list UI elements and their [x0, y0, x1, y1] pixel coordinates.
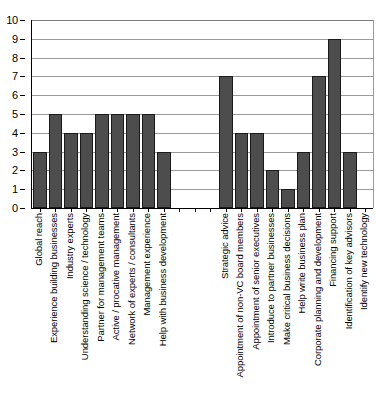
x-axis-label-slot: Corporate planning and development — [310, 213, 326, 413]
x-axis-label: Active / procative management — [111, 213, 121, 341]
x-axis-label-slot: Partner for management teams — [93, 213, 109, 413]
x-tick-mark — [288, 208, 289, 212]
x-axis-label: Partner for management teams — [96, 213, 106, 342]
bar[interactable] — [328, 39, 342, 208]
x-axis-label-slot: Industry experts — [62, 213, 78, 413]
bar-slot — [187, 20, 203, 208]
x-tick-mark — [164, 208, 165, 212]
bar[interactable] — [281, 189, 295, 208]
y-tick-label: 1 — [12, 184, 18, 195]
x-tick-mark — [272, 208, 273, 212]
x-axis-label: Appointment of non-VC board members — [235, 213, 245, 377]
bar-slot — [249, 20, 265, 208]
y-tick-label: 6 — [12, 90, 18, 101]
y-tick-mark — [20, 170, 25, 171]
bar[interactable] — [312, 76, 326, 208]
x-axis-label-slot — [186, 213, 202, 413]
bars-layer — [32, 20, 373, 208]
x-axis-label: Network of experts / consultants — [127, 213, 137, 345]
x-axis-label: Help with business development — [158, 213, 168, 346]
bar[interactable] — [49, 114, 63, 208]
y-tick-label: 5 — [12, 109, 18, 120]
x-axis-label: Identify new technology — [359, 213, 369, 310]
bar-slot — [125, 20, 141, 208]
bar-slot — [32, 20, 48, 208]
bar-slot — [296, 20, 312, 208]
x-axis-label-slot: Help write business plan — [295, 213, 311, 413]
x-axis-label: Experience building businesses — [49, 213, 59, 343]
y-tick-mark — [20, 76, 25, 77]
x-tick-mark — [195, 208, 196, 212]
x-tick-mark — [210, 208, 211, 212]
x-tick-mark — [303, 208, 304, 212]
bar[interactable] — [142, 114, 156, 208]
x-axis-label-slot: Appointment of senior executives — [248, 213, 264, 413]
y-tick-label: 0 — [12, 203, 18, 214]
bar[interactable] — [266, 170, 280, 208]
y-tick-label: 8 — [12, 52, 18, 63]
bar-slot — [141, 20, 157, 208]
x-axis-label-slot: Appointment of non-VC board members — [233, 213, 249, 413]
bar[interactable] — [126, 114, 140, 208]
x-tick-mark — [179, 208, 180, 212]
y-tick-mark — [20, 133, 25, 134]
x-axis-label-slot: Global reach — [31, 213, 47, 413]
bar-slot — [63, 20, 79, 208]
bar-slot — [94, 20, 110, 208]
y-tick-mark — [20, 95, 25, 96]
x-axis-label: Global reach — [34, 213, 44, 266]
x-tick-mark — [226, 208, 227, 212]
x-axis-label-slot: Experience building businesses — [47, 213, 63, 413]
bar-slot — [79, 20, 95, 208]
y-tick-mark — [20, 58, 25, 59]
x-axis-label-slot: Strategic advice — [217, 213, 233, 413]
bar[interactable] — [235, 133, 249, 208]
x-tick-mark — [365, 208, 366, 212]
bar-slot — [327, 20, 343, 208]
bar[interactable] — [111, 114, 125, 208]
bar[interactable] — [33, 152, 47, 208]
bar[interactable] — [219, 76, 233, 208]
bar-slot — [265, 20, 281, 208]
bar-slot — [110, 20, 126, 208]
x-tick-mark — [71, 208, 72, 212]
x-axis-label-slot — [202, 213, 218, 413]
bar[interactable] — [343, 152, 357, 208]
x-axis-label-slot: Financing support — [326, 213, 342, 413]
bar[interactable] — [64, 133, 78, 208]
y-tick-mark — [20, 20, 25, 21]
bar-slot — [280, 20, 296, 208]
x-axis-label: Strategic advice — [220, 213, 230, 279]
x-axis-label: Identification of key advisors — [344, 213, 354, 329]
x-axis-label-slot: Introduce to partner businesses — [264, 213, 280, 413]
x-axis-label: Introduce to partner businesses — [266, 213, 276, 343]
y-tick-label: 4 — [12, 127, 18, 138]
bar-slot — [342, 20, 358, 208]
y-tick-mark — [20, 189, 25, 190]
bar[interactable] — [250, 133, 264, 208]
x-tick-mark — [241, 208, 242, 212]
bar[interactable] — [80, 133, 94, 208]
x-tick-mark — [319, 208, 320, 212]
y-tick-mark — [20, 39, 25, 40]
bar[interactable] — [95, 114, 109, 208]
y-tick-mark — [20, 114, 25, 115]
bar-slot — [156, 20, 172, 208]
bar-slot — [311, 20, 327, 208]
plot-area — [31, 20, 373, 209]
x-tick-mark — [334, 208, 335, 212]
x-axis-label: Industry experts — [65, 213, 75, 279]
x-axis-label-slot: Identify new technology — [357, 213, 373, 413]
y-tick-mark — [20, 208, 25, 209]
y-tick-label: 7 — [12, 71, 18, 82]
y-axis: 012345678910 — [0, 14, 28, 208]
x-axis: Global reachExperience building business… — [31, 213, 372, 413]
x-axis-label-slot: Network of experts / consultants — [124, 213, 140, 413]
bar[interactable] — [157, 152, 171, 208]
plot-right-edge — [373, 20, 374, 208]
bar-chart: 012345678910 Global reachExperience buil… — [0, 0, 376, 418]
bar[interactable] — [297, 152, 311, 208]
bar-slot — [172, 20, 188, 208]
x-tick-mark — [117, 208, 118, 212]
x-tick-mark — [40, 208, 41, 212]
